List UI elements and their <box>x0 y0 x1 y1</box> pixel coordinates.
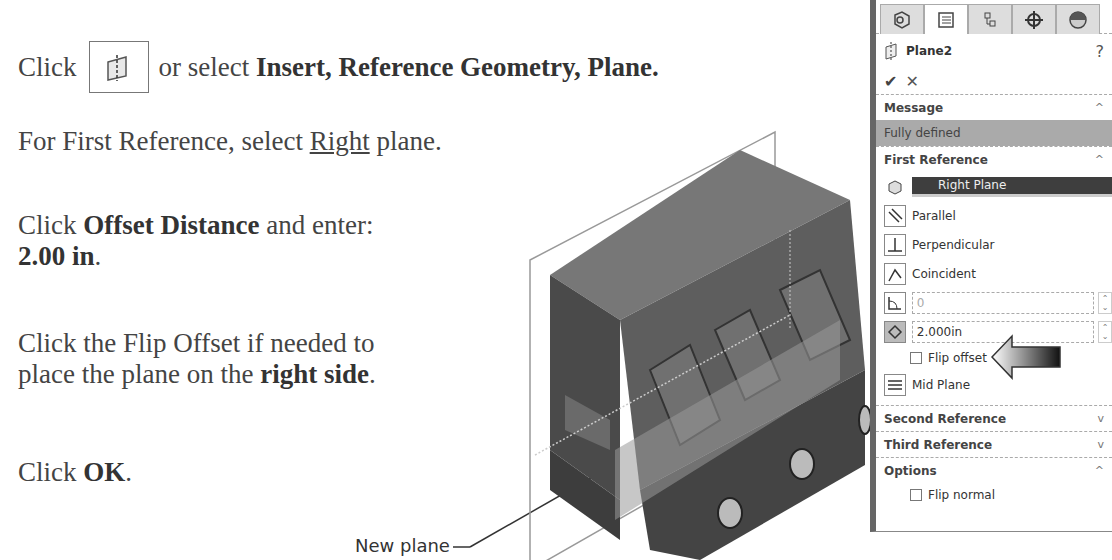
section-title: Message <box>884 101 943 115</box>
option-label: Perpendicular <box>912 238 995 252</box>
feature-tree-icon <box>892 10 912 30</box>
feature-name: Plane2 <box>906 44 1096 58</box>
mid-plane-icon <box>884 374 906 396</box>
parallel-icon <box>884 205 906 227</box>
third-reference-section-header[interactable]: Third Reference v <box>876 431 1112 457</box>
options-section-header[interactable]: Options ^ <box>876 457 1112 483</box>
flip-normal-checkbox[interactable]: Flip normal <box>876 483 1112 507</box>
angle-icon[interactable] <box>884 292 906 314</box>
message-text: Fully defined <box>876 120 1112 146</box>
cancel-button[interactable]: ✕ <box>905 72 918 91</box>
checkbox-label: Flip offset <box>928 351 987 365</box>
tab-configuration-manager[interactable] <box>968 4 1012 34</box>
option-label: Parallel <box>912 209 956 223</box>
plane-property-manager: Plane2 ? ✔ ✕ Message ^ Fully defined Fir… <box>870 0 1112 532</box>
chevron-down-icon: v <box>1097 412 1104 425</box>
coincident-icon <box>884 263 906 285</box>
chevron-up-icon: ^ <box>1095 101 1104 114</box>
option-label: Mid Plane <box>912 378 970 392</box>
help-button[interactable]: ? <box>1096 42 1105 61</box>
reference-selection-row: Right Plane <box>876 172 1112 201</box>
angle-input[interactable]: 0 <box>912 292 1094 314</box>
chevron-up-icon: ^ <box>1095 464 1104 477</box>
feature-title: Plane2 ? <box>876 34 1112 68</box>
manager-tabs <box>876 0 1112 34</box>
checkbox-label: Flip normal <box>928 488 995 502</box>
plane-icon <box>884 42 900 60</box>
angle-row: 0 ⌃⌄ <box>876 288 1112 317</box>
tab-dimxpert-manager[interactable] <box>1012 4 1056 34</box>
first-reference-section-header[interactable]: First Reference ^ <box>876 146 1112 172</box>
chevron-down-icon: v <box>1097 438 1104 451</box>
tab-feature-manager[interactable] <box>880 4 924 34</box>
coincident-option[interactable]: Coincident <box>876 259 1112 288</box>
offset-distance-spinner[interactable]: ⌃⌄ <box>1098 321 1112 343</box>
section-title: Second Reference <box>884 412 1006 426</box>
message-section-header[interactable]: Message ^ <box>876 94 1112 120</box>
perpendicular-icon <box>884 234 906 256</box>
first-reference-selection-box[interactable]: Right Plane <box>912 177 1112 197</box>
section-title: First Reference <box>884 153 988 167</box>
tab-display-manager[interactable] <box>1056 4 1100 34</box>
display-icon <box>1068 10 1088 30</box>
tab-property-manager[interactable] <box>924 4 968 34</box>
perpendicular-option[interactable]: Perpendicular <box>876 230 1112 259</box>
section-title: Options <box>884 464 937 478</box>
ok-button[interactable]: ✔ <box>884 72 897 91</box>
angle-spinner[interactable]: ⌃⌄ <box>1098 292 1112 314</box>
face-reference-icon <box>884 176 906 198</box>
checkbox-box[interactable] <box>910 352 922 364</box>
offset-distance-icon[interactable] <box>884 321 906 343</box>
chevron-up-icon: ^ <box>1095 153 1104 166</box>
property-list-icon <box>936 10 956 30</box>
checkbox-box[interactable] <box>910 489 922 501</box>
second-reference-section-header[interactable]: Second Reference v <box>876 405 1112 431</box>
section-title: Third Reference <box>884 438 992 452</box>
configuration-icon <box>980 10 1000 30</box>
parallel-option[interactable]: Parallel <box>876 201 1112 230</box>
part-model-viewport[interactable] <box>520 120 880 560</box>
option-label: Coincident <box>912 267 976 281</box>
crosshair-icon <box>1024 10 1044 30</box>
callout-arrow-icon <box>990 334 1070 380</box>
ok-cancel-row: ✔ ✕ <box>876 68 1112 94</box>
